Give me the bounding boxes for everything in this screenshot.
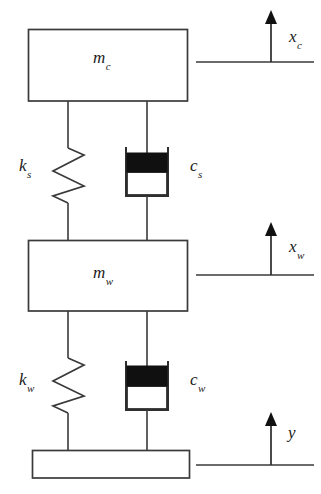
- label-tire-spring-base: k: [19, 370, 27, 389]
- label-wheel-displacement-subscript: w: [297, 249, 304, 261]
- label-sprung-mass-subscript: c: [106, 60, 111, 72]
- label-suspension-spring-base: k: [19, 156, 27, 175]
- label-unsprung-mass: mw: [93, 264, 113, 284]
- suspension-spring-coils: [53, 148, 84, 203]
- label-suspension-spring: ks: [19, 157, 31, 177]
- label-body-displacement-base: x: [289, 27, 297, 46]
- schematic-canvas: [0, 0, 321, 494]
- tire-spring-coils: [53, 358, 84, 413]
- label-suspension-damper: cs: [190, 157, 202, 177]
- label-unsprung-mass-base: m: [93, 263, 105, 282]
- label-body-displacement: xc: [289, 28, 301, 48]
- suspension-model-diagram: mc mw ks cs kw cw xc xw y: [0, 0, 321, 494]
- suspension-damper-chamber: [127, 172, 167, 195]
- wheel-displacement-arrow-head: [265, 222, 277, 236]
- label-tire-damper-subscript: w: [198, 382, 205, 394]
- suspension-damper-piston: [127, 153, 167, 172]
- tire-damper-piston: [127, 366, 167, 386]
- label-suspension-damper-subscript: s: [198, 168, 202, 180]
- road-displacement-arrow-head: [265, 412, 277, 426]
- label-tire-spring: kw: [19, 371, 34, 391]
- road-base-box: [33, 451, 190, 479]
- label-wheel-displacement: xw: [289, 238, 304, 258]
- label-road-input-base: y: [288, 423, 296, 442]
- label-suspension-damper-base: c: [190, 156, 198, 175]
- label-tire-damper: cw: [190, 371, 205, 391]
- label-road-input: y: [288, 424, 296, 444]
- label-body-displacement-subscript: c: [297, 39, 302, 51]
- label-suspension-spring-subscript: s: [27, 168, 31, 180]
- label-wheel-displacement-base: x: [289, 237, 297, 256]
- label-unsprung-mass-subscript: w: [106, 275, 113, 287]
- label-sprung-mass-base: m: [93, 48, 105, 67]
- body-displacement-arrow-head: [265, 10, 277, 24]
- label-sprung-mass: mc: [93, 49, 110, 69]
- tire-damper-chamber: [127, 386, 167, 409]
- label-tire-spring-subscript: w: [27, 382, 34, 394]
- label-tire-damper-base: c: [190, 370, 198, 389]
